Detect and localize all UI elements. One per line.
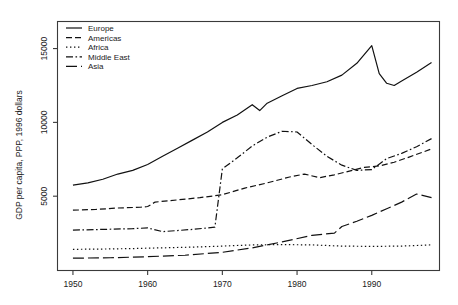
y-tick-label: 5000 [39,186,49,205]
legend-label-africa: Africa [88,43,109,52]
x-tick-label: 1950 [63,279,82,289]
x-tick-label: 1990 [362,279,381,289]
y-tick-label: 15000 [39,36,49,60]
x-tick-label: 1980 [288,279,307,289]
x-tick-label: 1960 [138,279,157,289]
y-axis-title-label: GDP per capita, PPP, 1996 dollars [14,90,24,220]
chart-canvas: GDP per capita, PPP, 1996 dollars 500010… [0,0,458,305]
legend-label-asia: Asia [88,62,104,71]
legend-label-americas: Americas [88,34,121,43]
x-tick-label: 1970 [213,279,232,289]
gdp-per-capita-line-chart: GDP per capita, PPP, 1996 dollars 500010… [0,0,458,305]
y-tick-label: 10000 [39,110,49,134]
chart-background [0,0,458,305]
legend-label-middle-east: Middle East [88,53,131,62]
legend-label-europe: Europe [88,24,114,33]
y-axis-title: GDP per capita, PPP, 1996 dollars [14,90,24,220]
